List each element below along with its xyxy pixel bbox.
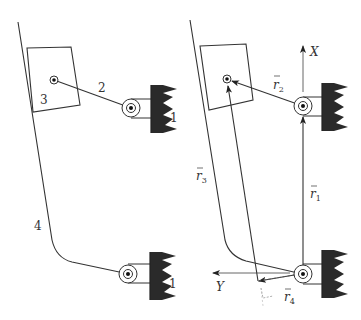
upper-ground-pivot	[294, 83, 348, 131]
vector-r3	[228, 86, 258, 281]
link-2-bar	[54, 80, 131, 108]
label-link-1-lower: 1	[169, 277, 177, 291]
ground-hatch-icon	[150, 252, 176, 300]
ground-hatch-icon	[322, 250, 348, 298]
label-link-3: 3	[40, 93, 48, 107]
label-link-4: 4	[34, 219, 42, 233]
right-angle-marker	[261, 288, 273, 298]
svg-text:r2: r2	[273, 78, 284, 94]
x-axis-label: X	[309, 45, 319, 59]
label-r3: r3	[196, 168, 207, 185]
right-figure: X Y	[190, 20, 348, 306]
label-r4: r4	[284, 289, 295, 306]
ground-hatch-icon	[322, 83, 348, 131]
link-4-body	[190, 20, 298, 273]
slider-pin-joint	[223, 75, 231, 83]
svg-text:r3: r3	[196, 169, 207, 185]
upper-ground-pivot	[122, 85, 177, 133]
perpendicular-guide	[261, 288, 263, 306]
label-link-2: 2	[98, 81, 106, 95]
label-r1: r1	[310, 186, 321, 203]
label-r2: r2	[273, 76, 284, 94]
y-axis-label: Y	[216, 280, 225, 294]
lower-ground-pivot	[119, 252, 176, 300]
mechanism-diagram: 3 2 1 4 1 X Y	[0, 0, 361, 320]
svg-text:r4: r4	[284, 290, 295, 306]
lower-ground-pivot	[294, 250, 348, 298]
svg-text:r1: r1	[310, 187, 321, 203]
ground-hatch-icon	[151, 85, 177, 133]
slider-pin-joint	[50, 76, 58, 84]
label-link-1-upper: 1	[170, 111, 178, 125]
link-4-body	[18, 22, 124, 273]
left-figure: 3 2 1 4 1	[18, 22, 178, 300]
